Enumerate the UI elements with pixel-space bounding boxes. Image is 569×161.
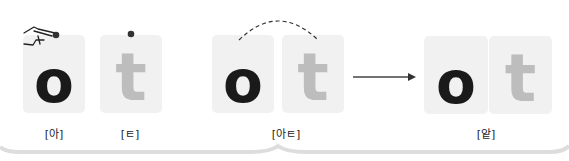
bottom-brace-frame <box>0 146 569 152</box>
overlay-graphics <box>0 0 569 161</box>
dashed-arc-connector <box>239 21 318 40</box>
pointing-hand-icon <box>24 27 55 45</box>
start-dot-o <box>53 32 60 39</box>
start-dot-t <box>128 31 135 38</box>
right-arrow-icon <box>353 73 416 81</box>
